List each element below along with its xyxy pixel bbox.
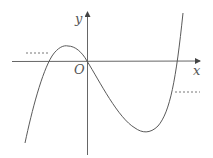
x-axis (12, 61, 200, 62)
function-graph-diagram: y x O (0, 0, 213, 158)
y-axis-label: y (74, 11, 83, 26)
cubic-curve (25, 13, 183, 143)
x-axis-label: x (193, 63, 201, 78)
graph-canvas: y x O (0, 0, 213, 158)
origin-label: O (74, 62, 85, 77)
